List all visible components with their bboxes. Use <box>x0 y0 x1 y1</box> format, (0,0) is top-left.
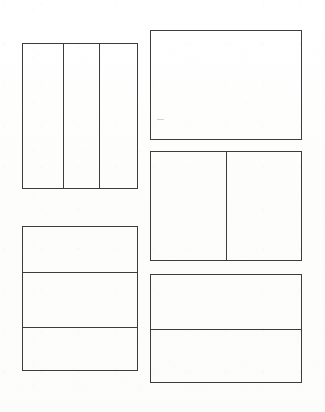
panel-4-cell-3[interactable] <box>23 328 137 372</box>
panel-2-cell-1[interactable] <box>151 31 301 139</box>
panel-bottom-left-three-row[interactable] <box>22 226 138 371</box>
panel-top-right-single[interactable] <box>150 30 302 140</box>
panel-3-cell-2[interactable] <box>227 152 303 260</box>
panel-bottom-right-two-row[interactable] <box>150 274 302 383</box>
panel-1-cell-1[interactable] <box>23 44 63 188</box>
panel-3-cell-1[interactable] <box>151 152 226 260</box>
panel-5-cell-1[interactable] <box>151 275 301 329</box>
panel-top-left-three-column[interactable] <box>22 43 138 189</box>
panel-1-cell-2[interactable] <box>64 44 99 188</box>
panel-middle-right-two-column[interactable] <box>150 151 302 261</box>
panel-1-cell-3[interactable] <box>100 44 139 188</box>
panel-4-cell-2[interactable] <box>23 273 137 327</box>
panel-layout-sheet <box>0 0 325 412</box>
panel-4-cell-1[interactable] <box>23 227 137 272</box>
panel-5-cell-2[interactable] <box>151 330 301 384</box>
